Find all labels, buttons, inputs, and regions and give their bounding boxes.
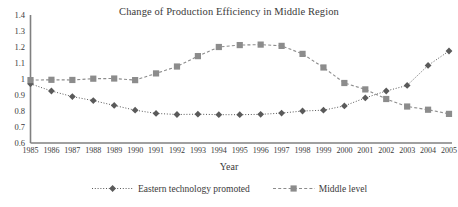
x-tick-label: 2000 [334,146,354,155]
x-tick-label: 1994 [209,146,229,155]
x-tick-label: 1989 [104,146,124,155]
series-line [31,51,450,115]
y-tick-label: 1.4 [3,11,25,20]
x-tick-label: 1986 [41,146,61,155]
chart-container: Change of Production Efficiency in Middl… [0,0,458,207]
y-tick-label: 1.3 [3,27,25,36]
y-tick-label: 0.8 [3,107,25,116]
diamond-marker-icon [278,110,285,117]
square-marker-icon [174,63,180,69]
x-tick-label: 1990 [125,146,145,155]
square-marker-icon [279,43,285,49]
diamond-marker-icon [320,107,327,114]
y-tick-label: 1 [3,75,25,84]
legend-item[interactable]: Middle level [272,183,367,194]
diamond-marker-icon [48,88,55,95]
diamond-marker-icon [91,183,135,194]
y-tick-label: 0.9 [3,91,25,100]
square-marker-icon [237,42,243,48]
square-marker-icon [48,77,54,83]
x-tick-label: 1997 [272,146,292,155]
diamond-marker-icon [404,82,411,89]
square-marker-icon [362,86,368,92]
square-marker-icon [27,77,33,83]
diamond-marker-icon [90,97,97,104]
x-tick-label: 2004 [418,146,438,155]
square-marker-icon [69,77,75,83]
diamond-marker-icon [383,88,390,95]
x-tick-label: 1988 [83,146,103,155]
square-marker-icon [132,77,138,83]
diamond-marker-icon [341,102,348,109]
square-marker-icon [383,96,389,102]
diamond-marker-icon [425,62,432,69]
y-tick-label: 1.1 [3,59,25,68]
square-marker-icon [404,103,410,109]
square-marker-icon [272,183,316,194]
x-tick-label: 1992 [167,146,187,155]
square-marker-icon [111,75,117,81]
plot-area [0,0,458,207]
x-axis-title: Year [0,161,458,172]
x-tick-label: 1993 [188,146,208,155]
series-1 [27,48,452,118]
x-tick-label: 1995 [230,146,250,155]
diamond-marker-icon [153,110,160,117]
chart-legend: Eastern technology promotedMiddle level [0,183,458,194]
square-marker-icon [341,80,347,86]
y-tick-label: 0.7 [3,123,25,132]
diamond-marker-icon [236,111,243,118]
x-tick-label: 1999 [313,146,333,155]
legend-item-label: Middle level [319,184,367,194]
square-marker-icon [299,51,305,57]
x-tick-label: 1998 [293,146,313,155]
diamond-marker-icon [174,111,181,118]
diamond-marker-icon [215,111,222,118]
x-tick-label: 2003 [397,146,417,155]
x-tick-label: 1987 [62,146,82,155]
diamond-marker-icon [69,93,76,100]
x-tick-label: 2002 [376,146,396,155]
x-tick-label: 2005 [439,146,458,155]
square-marker-icon [320,64,326,70]
series-2 [27,42,452,117]
square-marker-icon [446,111,452,117]
square-marker-icon [425,107,431,113]
x-tick-label: 1985 [21,146,41,155]
x-tick-label: 1996 [251,146,271,155]
legend-item-label: Eastern technology promoted [138,184,250,194]
square-marker-icon [153,70,159,76]
diamond-marker-icon [111,102,118,109]
diamond-marker-icon [257,111,264,118]
diamond-marker-icon [195,111,202,118]
square-marker-icon [90,76,96,82]
legend-item[interactable]: Eastern technology promoted [91,183,250,194]
diamond-marker-icon [132,107,139,114]
diamond-marker-icon [362,94,369,101]
diamond-marker-icon [446,48,453,55]
square-marker-icon [195,53,201,59]
square-marker-icon [258,42,264,48]
diamond-marker-icon [299,108,306,115]
square-marker-icon [216,44,222,50]
x-tick-label: 1991 [146,146,166,155]
x-tick-label: 2001 [355,146,375,155]
y-tick-label: 1.2 [3,43,25,52]
